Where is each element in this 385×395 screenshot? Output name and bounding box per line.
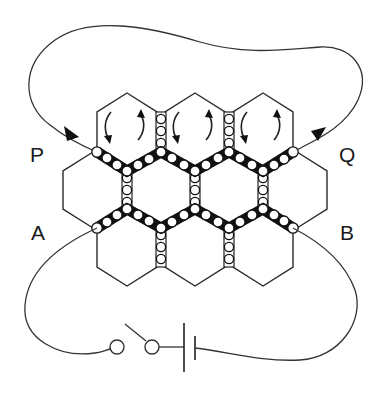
terminal-q [288,147,298,157]
switch-blade [125,324,146,341]
terminal-p [92,147,102,157]
label-b: B [340,222,354,243]
label-p: P [30,144,44,165]
honeycomb-circuit-diagram [0,0,385,395]
arrowhead-out-of-q-icon [311,127,326,141]
label-a: A [31,222,45,243]
switch-terminal-left [110,340,124,354]
hex-row-top [97,93,293,171]
hex-row-bottom [97,209,293,286]
label-q: Q [339,144,355,165]
arrowhead-into-p-icon [64,126,79,141]
switch-terminal-right [145,340,159,354]
